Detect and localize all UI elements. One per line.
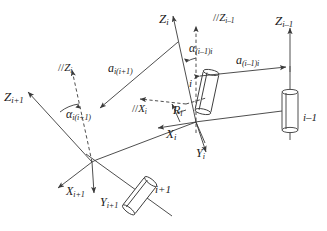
axis-label-x-i-plus-1-sub: i+1 [73, 190, 84, 199]
axis-label-z-i-sub: i [166, 17, 168, 27]
axis-label-z-i: Zi [159, 12, 169, 27]
angle-arc-alpha-i-minus-1-i [184, 58, 196, 63]
axis-label-x-i-par-sub: i [145, 107, 147, 116]
parameter-label-alpha-next-sub: i(i+1) [72, 113, 91, 122]
axis-label-x-i-plus-1: Xi+1 [66, 185, 85, 199]
parameter-label-r-i: Ri [173, 104, 182, 118]
axis-label-x-i: Xi [166, 127, 176, 142]
parameter-label-a-i-minus-1-i: a(i–1)i [236, 54, 259, 68]
axis-label-y-i-sub: i [203, 152, 205, 161]
axis-z-i-negative-stub [196, 122, 205, 143]
axis-label-y-i-plus-1: Yi+1 [100, 196, 118, 210]
parameter-label-a-i-i-plus-1: ai(i+1) [108, 62, 133, 76]
axis-label-y-i: Yi [196, 147, 205, 161]
axis-label-y-i-base: Y [196, 146, 203, 160]
parameter-label-a-prev-sub: (i–1)i [242, 59, 259, 68]
joint-label-i: i [189, 78, 192, 89]
axis-label-x-i-par-base: X [138, 102, 145, 114]
diagram-canvas [0, 0, 327, 231]
parameter-label-alpha-prev-sub: (i–1)i [195, 47, 212, 56]
axis-label-z-i-plus-1: Zi+1 [4, 90, 24, 105]
axis-label-z-i-minus-1-par-sub: i–1 [225, 16, 234, 25]
axis-z-i-plus-1 [28, 92, 92, 162]
kinematic-diagram: Zi //Zi–1 Zi–1 //Zi Zi+1 //Xi Ri Xi Yi X… [0, 0, 327, 231]
axis-label-z-i-plus-1-sub: i+1 [11, 95, 23, 105]
joint-i-minus-1-cylinder [282, 89, 298, 132]
parameter-label-alpha-i-minus-1-i: α(i–1)i [189, 42, 212, 56]
axis-label-x-i-base: X [166, 126, 174, 141]
joint-i-plus-1-cylinder [121, 175, 158, 217]
axis-label-z-i-minus-1-sub: i–1 [282, 19, 293, 29]
axis-label-x-i-sub: i [174, 132, 176, 142]
axis-y-i-plus-1 [92, 162, 94, 193]
joint-label-i-minus-1: i–1 [303, 112, 317, 123]
axis-label-x-i-parallel: //Xi [132, 103, 147, 115]
joint-label-i-plus-1: i+1 [155, 184, 171, 195]
axis-label-z-i-minus-1: Zi–1 [275, 14, 293, 29]
parameter-label-r-i-sub: i [180, 109, 182, 118]
parameter-label-a-next-sub: i(i+1) [114, 67, 133, 76]
axis-label-z-i-parallel: //Zi [58, 62, 72, 74]
axis-label-z-i-par-sub: i [70, 66, 72, 75]
axis-label-y-i-plus-1-sub: i+1 [107, 201, 118, 210]
link-line-o-i-to-o-i-plus-1 [92, 122, 196, 162]
axis-label-z-i-minus-1-parallel: //Zi–1 [213, 12, 234, 24]
parameter-label-alpha-i-i-plus-1: αi(i+1) [66, 108, 91, 122]
axis-x-i [158, 122, 196, 128]
axis-label-y-i-plus-1-base: Y [100, 195, 107, 209]
